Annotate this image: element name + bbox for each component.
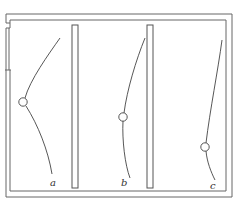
frame-inner-edge	[10, 20, 226, 191]
label-a: a	[50, 177, 56, 188]
curve-c-lower	[206, 151, 215, 180]
curve-a-bob-icon	[19, 98, 27, 106]
curve-b-bob-icon	[119, 113, 127, 121]
label-b: b	[121, 177, 127, 188]
curve-a	[19, 38, 60, 174]
curve-c-bob-icon	[201, 143, 209, 151]
label-c: c	[210, 180, 216, 191]
curve-c	[201, 40, 222, 180]
curve-a-upper	[25, 38, 60, 98]
box-frame	[5, 14, 232, 197]
curve-c-upper	[206, 40, 222, 143]
partition-right	[147, 25, 153, 188]
diagram-canvas: a b c	[0, 0, 237, 203]
partition-left	[72, 25, 78, 188]
frame-outer-edge	[6, 14, 232, 197]
curve-b	[119, 38, 145, 178]
curve-a-lower	[26, 106, 52, 174]
curve-b-lower	[123, 121, 130, 178]
curve-b-upper	[124, 38, 145, 113]
